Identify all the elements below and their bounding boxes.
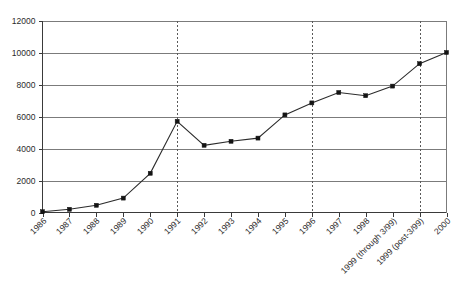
x-tick-label-9: 1995: [270, 216, 291, 237]
y-tick-label-0: 0: [31, 208, 36, 218]
grid-group: [43, 22, 447, 182]
x-tick-marks-group: [44, 213, 448, 217]
data-point-marker: 1988: 450: [94, 203, 98, 207]
annotation-lines-group: [178, 21, 421, 217]
x-tick-label-2: 1988: [81, 216, 102, 237]
data-point-marker: 1990: 2450: [148, 171, 152, 175]
data-point-marker: 1999 (post-3/99): 9300: [418, 62, 422, 66]
chart-canvas: 020004000600080001000012000 198619871988…: [0, 0, 459, 295]
data-point-marker: 1989: 900: [121, 196, 125, 200]
y-axis-labels-group: 020004000600080001000012000: [12, 16, 36, 218]
data-point-marker: 1994: 4650: [256, 136, 260, 140]
data-point-marker: 1992: 4200: [202, 143, 206, 147]
data-point-marker: 1993: 4450: [229, 139, 233, 143]
data-series-group: [43, 53, 447, 212]
data-markers-group: 1986: 501987: 2001988: 4501989: 9001990:…: [41, 51, 449, 214]
x-tick-label-14: 1999 (post-3/99): [374, 216, 425, 267]
x-tick-label-0: 1986: [28, 216, 49, 237]
x-axis-labels-group: 1986198719881989199019911992199319941995…: [28, 216, 453, 276]
data-point-marker: 1991: 5700: [175, 119, 179, 123]
y-tick-label-8000: 8000: [17, 80, 36, 90]
line-chart: 020004000600080001000012000 198619871988…: [0, 0, 459, 295]
y-tick-label-2000: 2000: [17, 176, 36, 186]
data-point-marker: 1997: 7500: [337, 91, 341, 95]
series-line: [43, 53, 447, 212]
data-point-marker: 1996: 6850: [310, 101, 314, 105]
data-point-marker: 2000: 10000: [445, 51, 449, 55]
x-tick-label-1: 1987: [54, 216, 75, 237]
x-tick-label-11: 1997: [324, 216, 345, 237]
data-point-marker: 1987: 200: [67, 207, 71, 211]
x-tick-label-10: 1996: [297, 216, 318, 237]
axes-group: [43, 21, 447, 213]
x-tick-label-3: 1989: [108, 216, 129, 237]
x-tick-label-6: 1992: [189, 216, 210, 237]
y-tick-label-6000: 6000: [17, 112, 36, 122]
x-tick-label-15: 2000: [432, 216, 453, 237]
x-tick-label-7: 1993: [216, 216, 237, 237]
y-tick-marks-group: [39, 22, 43, 214]
data-point-marker: 1995: 6100: [283, 113, 287, 117]
x-tick-label-5: 1991: [162, 216, 183, 237]
y-tick-label-10000: 10000: [12, 48, 36, 58]
y-tick-label-12000: 12000: [12, 16, 36, 26]
data-point-marker: 1998: 7300: [364, 94, 368, 98]
x-tick-label-8: 1994: [243, 216, 264, 237]
x-tick-label-4: 1990: [135, 216, 156, 237]
data-point-marker: 1986: 50: [41, 210, 45, 214]
x-tick-label-12: 1998: [351, 216, 372, 237]
y-tick-label-4000: 4000: [17, 144, 36, 154]
data-point-marker: 1999 (through 3/99): 7900: [391, 84, 395, 88]
